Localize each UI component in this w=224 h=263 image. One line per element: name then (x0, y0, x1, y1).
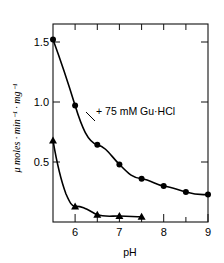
annotation-gu-hcl: + 75 mM Gu·HCl (96, 105, 175, 117)
series-guhcl-markers (49, 136, 146, 219)
annotation-leader-line (86, 112, 95, 121)
x-ticklabel-7: 7 (116, 226, 122, 238)
ph-activity-plot: 6 7 8 9 0.5 1.0 1.5 pH μ moles · min⁻¹ ·… (0, 0, 224, 263)
y-ticklabel-1-5: 1.5 (34, 36, 49, 48)
top-axis-ticks (75, 24, 186, 30)
right-axis-ticks (201, 42, 208, 162)
y-ticklabel-1-0: 1.0 (34, 96, 49, 108)
series-control-line (53, 40, 208, 195)
x-ticklabel-8: 8 (161, 226, 167, 238)
x-ticklabel-9: 9 (205, 226, 211, 238)
x-axis-title: pH (123, 246, 136, 258)
series-guhcl-line (53, 140, 142, 216)
chart-figure: 6 7 8 9 0.5 1.0 1.5 pH μ moles · min⁻¹ ·… (0, 0, 224, 263)
y-ticklabel-0-5: 0.5 (34, 156, 49, 168)
y-axis-title: μ moles · min⁻¹ · mg⁻¹ (11, 83, 22, 173)
x-ticklabel-6: 6 (72, 226, 78, 238)
